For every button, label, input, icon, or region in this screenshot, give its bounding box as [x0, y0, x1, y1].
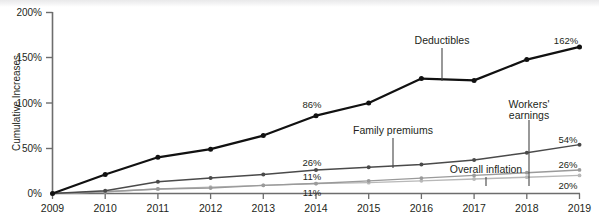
y-tick-label-200: 200%	[16, 7, 42, 18]
data-point-workers-earnings-2016	[420, 176, 424, 180]
data-point-family-premiums-2018	[525, 151, 529, 155]
data-point-deductibles-2016	[419, 76, 424, 81]
data-point-deductibles-2018	[524, 57, 529, 62]
data-point-family-premiums-2011	[156, 180, 160, 184]
data-point-family-premiums-2012	[209, 176, 213, 180]
data-point-family-premiums-2010	[103, 189, 107, 193]
data-point-family-premiums-2013	[261, 173, 265, 177]
x-tick-label-2019: 2019	[568, 202, 592, 214]
x-tick-label-2009: 2009	[41, 202, 65, 214]
data-point-deductibles-2013	[261, 133, 266, 138]
data-point-family-premiums-2017	[472, 158, 476, 162]
data-point-workers-earnings-2015	[367, 179, 371, 183]
x-tick-label-2012: 2012	[199, 202, 223, 214]
data-point-deductibles-2011	[155, 155, 160, 160]
y-axis-title: Cumulative Increases	[11, 55, 22, 151]
x-tick-label-2014: 2014	[304, 202, 328, 214]
data-point-family-premiums-2019	[578, 143, 582, 147]
value-label-family-2019: 54%	[558, 134, 578, 145]
cumulative-increases-line-chart: 200% 150% 100% 50% 0% Cumulative Increas…	[0, 0, 599, 220]
value-label-deductibles-2014: 86%	[302, 99, 322, 110]
x-tick-label-2016: 2016	[410, 202, 434, 214]
data-point-workers-earnings-2012	[209, 186, 213, 190]
value-label-workers-2014: 11%	[303, 171, 322, 182]
x-tick-label-2015: 2015	[357, 202, 381, 214]
data-point-deductibles-2012	[208, 147, 213, 152]
data-point-workers-earnings-2013	[261, 183, 265, 187]
data-point-family-premiums-2015	[367, 165, 371, 169]
data-point-workers-earnings-2014	[314, 182, 318, 186]
data-point-overall-inflation-2018	[525, 175, 529, 179]
data-point-deductibles-2010	[103, 172, 108, 177]
x-tick-label-2017: 2017	[462, 202, 486, 214]
x-tick-label-2010: 2010	[94, 202, 118, 214]
data-point-overall-inflation-2017	[472, 177, 476, 181]
annotation-family-premiums: Family premiums	[353, 124, 433, 136]
annotation-overall-inflation: Overall inflation	[450, 163, 523, 175]
data-point-workers-earnings-2011	[156, 187, 160, 191]
x-tick-labels: 2009 2010 2011 2012 2013 2014 2015 2016 …	[41, 202, 592, 214]
value-label-deductibles-2019: 162%	[554, 35, 579, 46]
x-tick-label-2018: 2018	[515, 202, 539, 214]
value-label-family-2014: 26%	[302, 157, 322, 168]
x-tick-label-2013: 2013	[252, 202, 276, 214]
data-point-deductibles-2017	[472, 78, 477, 83]
data-point-overall-inflation-2019	[578, 174, 582, 178]
data-point-deductibles-2009	[50, 191, 55, 196]
value-label-workers-2019: 26%	[558, 159, 578, 170]
value-label-inflation-2019: 20%	[558, 180, 578, 191]
y-tick-label-50: 50%	[22, 143, 42, 154]
data-point-workers-earnings-2018	[525, 171, 529, 175]
value-label-inflation-2014: 11%	[303, 187, 322, 198]
data-point-deductibles-2015	[366, 101, 371, 106]
annotation-workers-earnings-line2: earnings	[509, 109, 549, 121]
annotation-deductibles: Deductibles	[415, 34, 470, 46]
chart-svg: 200% 150% 100% 50% 0% Cumulative Increas…	[0, 0, 599, 220]
x-tick-label-2011: 2011	[147, 202, 170, 214]
y-tick-label-0: 0%	[28, 188, 43, 199]
data-point-workers-earnings-2019	[578, 168, 582, 172]
data-point-family-premiums-2016	[419, 163, 423, 167]
data-point-deductibles-2014	[314, 113, 319, 118]
